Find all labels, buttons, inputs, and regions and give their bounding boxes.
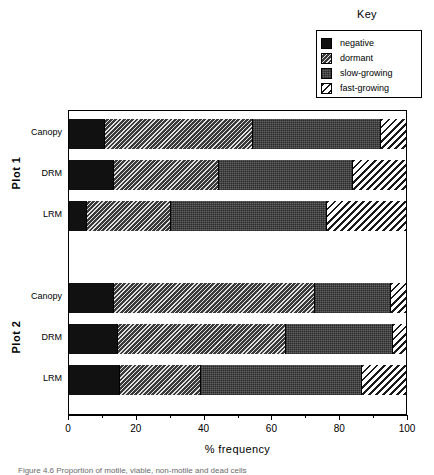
bar-segment-fast-growing	[353, 160, 406, 190]
stipple-grey-swatch	[321, 68, 332, 79]
bar-segment-negative	[69, 283, 114, 313]
figure-caption: Figure 4.6 Proportion of motile, viable,…	[18, 466, 428, 475]
bar-segment-negative	[69, 365, 120, 395]
stacked-bar	[69, 324, 406, 354]
group-label-plot-1: Plot 1	[10, 143, 22, 203]
x-axis-minor-tick	[238, 415, 239, 418]
legend-item-label: negative	[340, 39, 374, 48]
bar-segment-slow-growing	[171, 201, 327, 231]
bar-segment-negative	[69, 324, 118, 354]
x-axis-tick	[68, 415, 69, 420]
bar-segment-fast-growing	[327, 201, 406, 231]
bar-segment-fast-growing	[391, 283, 406, 313]
bar-segment-negative	[69, 119, 105, 149]
bar-segment-negative	[69, 160, 114, 190]
bar-segment-slow-growing	[253, 119, 381, 149]
group-label-column: Plot 1Plot 2	[0, 110, 30, 415]
stacked-bar	[69, 283, 406, 313]
diagonal-hatch-dark-swatch	[321, 53, 332, 64]
stacked-bar	[69, 160, 406, 190]
legend-item: slow-growing	[321, 66, 421, 80]
x-axis-title: % frequency	[68, 443, 407, 455]
x-axis-tick	[271, 415, 272, 420]
x-axis-minor-tick	[170, 415, 171, 418]
x-axis-tick-label: 80	[334, 423, 345, 434]
solid-black-swatch	[321, 38, 332, 49]
bar-segment-dormant	[118, 324, 286, 354]
x-axis-minor-tick	[102, 415, 103, 418]
bar-segment-slow-growing	[201, 365, 362, 395]
x-axis-tick-label: 40	[198, 423, 209, 434]
bar-segment-dormant	[105, 119, 253, 149]
bar-segment-dormant	[87, 201, 172, 231]
legend-item-label: dormant	[340, 54, 373, 63]
bar-segment-fast-growing	[362, 365, 406, 395]
bar-segment-dormant	[114, 160, 219, 190]
x-axis-tick-label: 100	[399, 423, 416, 434]
x-axis-tick	[204, 415, 205, 420]
bar-segment-fast-growing	[381, 119, 406, 149]
x-axis-tick-label: 60	[266, 423, 277, 434]
bar-segment-slow-growing	[286, 324, 394, 354]
x-axis: 020406080100	[68, 415, 407, 416]
bar-segment-negative	[69, 201, 87, 231]
legend-item: dormant	[321, 51, 421, 65]
legend-box: negativedormantslow-growingfast-growing	[316, 30, 422, 98]
x-axis-tick	[407, 415, 408, 420]
diagonal-hatch-light-swatch	[321, 83, 332, 94]
x-axis-minor-tick	[373, 415, 374, 418]
legend-title: Key	[300, 8, 434, 20]
plot-area	[68, 110, 407, 415]
stacked-bar	[69, 365, 406, 395]
x-axis-tick	[339, 415, 340, 420]
bar-segment-dormant	[114, 283, 315, 313]
bar-segment-slow-growing	[219, 160, 353, 190]
bar-segment-dormant	[120, 365, 202, 395]
stacked-bar	[69, 201, 406, 231]
group-label-plot-2: Plot 2	[10, 307, 22, 367]
x-axis-tick	[136, 415, 137, 420]
legend-item: negative	[321, 36, 421, 50]
legend-item-label: fast-growing	[340, 84, 389, 93]
x-axis-tick-label: 20	[130, 423, 141, 434]
legend-item-label: slow-growing	[340, 69, 393, 78]
x-axis-minor-tick	[305, 415, 306, 418]
stacked-bar	[69, 119, 406, 149]
bar-segment-slow-growing	[315, 283, 391, 313]
legend-item: fast-growing	[321, 81, 421, 95]
bar-segment-fast-growing	[393, 324, 406, 354]
x-axis-tick-label: 0	[65, 423, 71, 434]
